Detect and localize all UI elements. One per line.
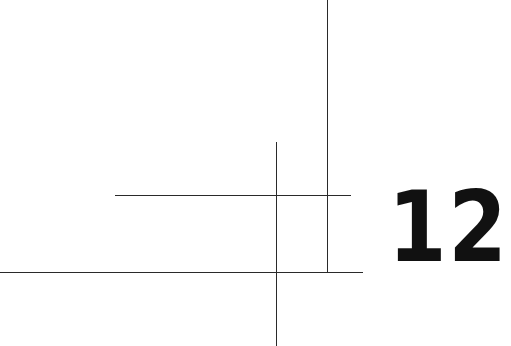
right-vertical-rule — [327, 0, 328, 272]
lower-horizontal-rule — [0, 272, 363, 273]
upper-horizontal-rule — [115, 195, 351, 196]
chapter-number: 12 — [388, 178, 509, 276]
left-vertical-rule — [276, 142, 277, 346]
